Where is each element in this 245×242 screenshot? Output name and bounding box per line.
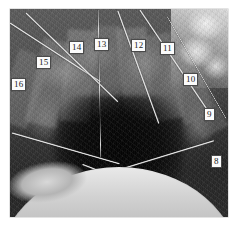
excavation-photograph: 1615141312111098 <box>10 9 228 217</box>
label-13: 13 <box>94 38 109 51</box>
label-11: 11 <box>160 42 175 55</box>
label-9: 9 <box>204 108 215 121</box>
label-14: 14 <box>69 41 84 54</box>
figure-container: 1615141312111098 <box>0 0 245 242</box>
label-10: 10 <box>183 73 198 86</box>
label-15: 15 <box>36 56 51 69</box>
label-8: 8 <box>211 155 222 168</box>
label-12: 12 <box>131 39 146 52</box>
number-labels-layer: 1615141312111098 <box>10 9 228 217</box>
label-16: 16 <box>11 78 26 91</box>
